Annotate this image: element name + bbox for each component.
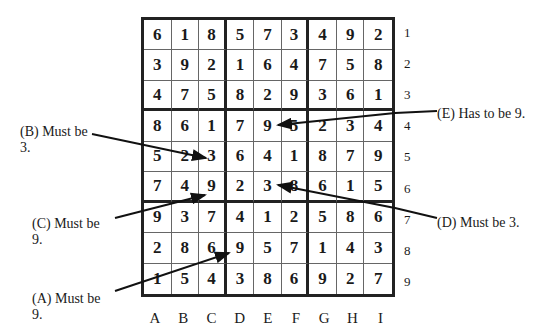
cell-D3: 8 bbox=[227, 81, 255, 111]
cell-D2: 1 bbox=[227, 50, 255, 80]
cell-H1: 9 bbox=[337, 20, 365, 50]
cell-H6: 1 bbox=[337, 172, 365, 202]
column-label: E bbox=[254, 310, 282, 327]
cell-E9: 8 bbox=[254, 264, 282, 294]
cell-I2: 8 bbox=[364, 50, 392, 80]
cell-C8: 6 bbox=[199, 233, 227, 263]
cell-H5: 7 bbox=[337, 142, 365, 172]
cell-E8: 5 bbox=[254, 233, 282, 263]
cell-C9: 4 bbox=[199, 264, 227, 294]
row-label: 4 bbox=[404, 118, 411, 134]
sudoku-grid: 6185734923921647584758293618617952345236… bbox=[141, 17, 395, 297]
cell-D6: 2 bbox=[227, 172, 255, 202]
cell-B1: 1 bbox=[172, 20, 200, 50]
row-label: 5 bbox=[404, 149, 411, 165]
cell-D4: 7 bbox=[227, 111, 255, 141]
cell-F3: 9 bbox=[282, 81, 310, 111]
cell-G4: 2 bbox=[309, 111, 337, 141]
annotation-c-line2: 9. bbox=[32, 232, 100, 248]
cell-B4: 6 bbox=[172, 111, 200, 141]
column-label: I bbox=[367, 310, 395, 327]
cell-G9: 9 bbox=[309, 264, 337, 294]
annotation-d-text: (D) Must be 3. bbox=[437, 215, 519, 230]
column-label: G bbox=[310, 310, 338, 327]
row-label: 7 bbox=[404, 212, 411, 228]
cell-C6: 9 bbox=[199, 172, 227, 202]
column-label: C bbox=[197, 310, 225, 327]
cell-A4: 8 bbox=[144, 111, 172, 141]
annotation-b-line1: (B) Must be bbox=[20, 124, 88, 140]
cell-A7: 9 bbox=[144, 203, 172, 233]
cell-E2: 6 bbox=[254, 50, 282, 80]
row-label: 6 bbox=[404, 181, 411, 197]
cell-F9: 6 bbox=[282, 264, 310, 294]
cell-A6: 7 bbox=[144, 172, 172, 202]
cell-E7: 1 bbox=[254, 203, 282, 233]
cell-F6: 8 bbox=[282, 172, 310, 202]
cell-B8: 8 bbox=[172, 233, 200, 263]
annotation-a-line2: 9. bbox=[32, 307, 100, 323]
cell-E5: 4 bbox=[254, 142, 282, 172]
cell-A9: 1 bbox=[144, 264, 172, 294]
cell-B2: 9 bbox=[172, 50, 200, 80]
cell-H2: 5 bbox=[337, 50, 365, 80]
cell-G7: 5 bbox=[309, 203, 337, 233]
row-label: 9 bbox=[404, 274, 411, 290]
cell-C7: 7 bbox=[199, 203, 227, 233]
row-label: 2 bbox=[404, 56, 411, 72]
cell-C5: 3 bbox=[199, 142, 227, 172]
annotation-e-text: (E) Has to be 9. bbox=[437, 106, 525, 121]
cell-I9: 7 bbox=[364, 264, 392, 294]
annotation-b: (B) Must be 3. bbox=[20, 124, 88, 156]
cell-H3: 6 bbox=[337, 81, 365, 111]
cell-A5: 5 bbox=[144, 142, 172, 172]
column-label: B bbox=[169, 310, 197, 327]
cell-I4: 4 bbox=[364, 111, 392, 141]
cell-I1: 2 bbox=[364, 20, 392, 50]
cell-G5: 8 bbox=[309, 142, 337, 172]
cell-D8: 9 bbox=[227, 233, 255, 263]
cell-E6: 3 bbox=[254, 172, 282, 202]
cell-G2: 7 bbox=[309, 50, 337, 80]
cell-I3: 1 bbox=[364, 81, 392, 111]
column-label: D bbox=[226, 310, 254, 327]
cell-F8: 7 bbox=[282, 233, 310, 263]
row-label: 3 bbox=[404, 87, 411, 103]
cell-A3: 4 bbox=[144, 81, 172, 111]
cell-H4: 3 bbox=[337, 111, 365, 141]
cell-G8: 1 bbox=[309, 233, 337, 263]
cell-F5: 1 bbox=[282, 142, 310, 172]
row-label: 8 bbox=[404, 243, 411, 259]
cell-G1: 4 bbox=[309, 20, 337, 50]
annotation-a-line1: (A) Must be bbox=[32, 291, 100, 307]
cell-H7: 8 bbox=[337, 203, 365, 233]
annotation-c: (C) Must be 9. bbox=[32, 216, 100, 248]
cell-C1: 8 bbox=[199, 20, 227, 50]
annotation-e: (E) Has to be 9. bbox=[437, 106, 525, 122]
row-label: 1 bbox=[404, 25, 411, 41]
cell-C2: 2 bbox=[199, 50, 227, 80]
annotation-c-line1: (C) Must be bbox=[32, 216, 100, 232]
annotation-d: (D) Must be 3. bbox=[437, 215, 519, 231]
cell-E4: 9 bbox=[254, 111, 282, 141]
column-label: A bbox=[141, 310, 169, 327]
cell-A8: 2 bbox=[144, 233, 172, 263]
annotation-a: (A) Must be 9. bbox=[32, 291, 100, 323]
cell-F1: 3 bbox=[282, 20, 310, 50]
cell-B6: 4 bbox=[172, 172, 200, 202]
cell-D9: 3 bbox=[227, 264, 255, 294]
cell-B5: 2 bbox=[172, 142, 200, 172]
cell-E3: 2 bbox=[254, 81, 282, 111]
cell-B3: 7 bbox=[172, 81, 200, 111]
cell-G3: 3 bbox=[309, 81, 337, 111]
cell-C4: 1 bbox=[199, 111, 227, 141]
cell-H8: 4 bbox=[337, 233, 365, 263]
cell-E1: 7 bbox=[254, 20, 282, 50]
cell-C3: 5 bbox=[199, 81, 227, 111]
cell-A2: 3 bbox=[144, 50, 172, 80]
cell-I8: 3 bbox=[364, 233, 392, 263]
annotation-b-line2: 3. bbox=[20, 140, 88, 156]
cell-H9: 2 bbox=[337, 264, 365, 294]
cell-I7: 6 bbox=[364, 203, 392, 233]
cell-D1: 5 bbox=[227, 20, 255, 50]
